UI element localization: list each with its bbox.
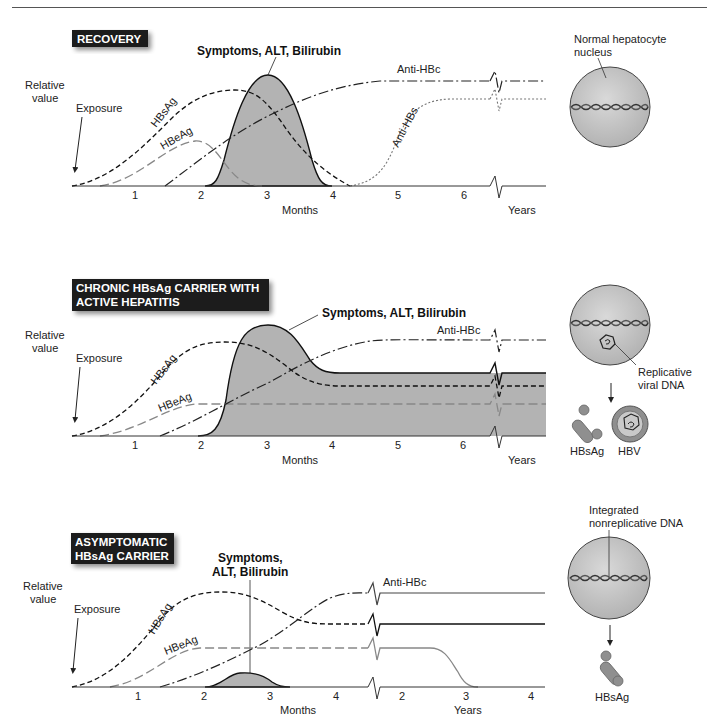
- symptoms-label: ALT, Bilirubin: [212, 565, 288, 579]
- symptoms-curve: [198, 325, 546, 436]
- hbv-product-label: HBV: [618, 445, 641, 457]
- symptoms-label: Symptoms, ALT, Bilirubin: [322, 306, 466, 320]
- anti-hbc-label: Anti-HBc: [383, 576, 427, 588]
- nucleus-label: Normal hepatocyte: [574, 33, 666, 45]
- x-tick: 2: [198, 439, 204, 451]
- symptoms-leader: [289, 315, 318, 330]
- panel-title: ACTIVE HEPATITIS: [76, 296, 180, 308]
- hbsag-product-label: HBsAg: [595, 691, 629, 703]
- y-axis-label: value: [30, 593, 56, 605]
- x-tick: 4: [528, 690, 534, 702]
- x-tick: 6: [461, 189, 467, 201]
- anti-hbs-label: Anti-HBs: [389, 105, 420, 149]
- hbsag-product-label: HBsAg: [570, 445, 604, 457]
- symptoms-label: Symptoms,: [218, 551, 283, 565]
- exposure-label: Exposure: [74, 603, 120, 615]
- integrated-dna-nucleus: [568, 530, 650, 619]
- panel-title: HBsAg CARRIER: [75, 550, 170, 562]
- x-tick: 4: [333, 690, 339, 702]
- axis-break-icon: [490, 71, 546, 93]
- symptoms-label: Symptoms, ALT, Bilirubin: [197, 44, 341, 58]
- x-axis-label-months: Months: [282, 454, 319, 466]
- integrated-dna-label: Integrated: [589, 504, 639, 516]
- panel-title: CHRONIC HBsAg CARRIER WITH: [76, 282, 259, 294]
- hbsag-curve-years: [368, 614, 545, 636]
- normal-hepatocyte-nucleus: [570, 58, 650, 147]
- y-axis-label: Relative: [25, 79, 65, 91]
- hbsag-label: HBsAg: [148, 95, 179, 129]
- symptoms-curve: [205, 75, 332, 186]
- x-tick: 1: [132, 189, 138, 201]
- panel-chronic: CHRONIC HBsAg CARRIER WITH ACTIVE HEPATI…: [25, 279, 692, 466]
- x-tick: 6: [460, 439, 466, 451]
- anti-hbs-curve: [350, 99, 490, 186]
- symptoms-curve: [205, 673, 290, 687]
- x-tick: 1: [132, 439, 138, 451]
- x-tick: 2: [198, 189, 204, 201]
- x-tick: 5: [395, 439, 401, 451]
- hbv-serology-figure: RECOVERY Relative value Exposure Symptom…: [0, 0, 720, 723]
- x-axis-label-years: Years: [508, 454, 536, 466]
- x-axis-label-years: Years: [454, 704, 482, 716]
- hbeag-curve-years: [368, 638, 478, 687]
- infected-hepatocyte-nucleus: [570, 285, 650, 365]
- x-tick: 3: [264, 189, 270, 201]
- panel-asymptomatic: ASYMPTOMATIC HBsAg CARRIER Relative valu…: [23, 504, 684, 716]
- y-axis-label: Relative: [23, 580, 63, 592]
- anti-hbc-label: Anti-HBc: [397, 63, 441, 75]
- panel-title: RECOVERY: [77, 33, 141, 45]
- x-tick: 4: [329, 439, 335, 451]
- hbsag-particle-icon: [570, 405, 602, 445]
- x-axis-label-months: Months: [282, 204, 319, 216]
- hbsag-label: HBsAg: [146, 601, 174, 636]
- viral-dna-label: viral DNA: [638, 379, 685, 391]
- x-tick: 2: [201, 690, 207, 702]
- x-axis-label-years: Years: [508, 204, 536, 216]
- hbsag-particle-icon: [598, 651, 623, 687]
- x-tick: 5: [395, 189, 401, 201]
- exposure-arrow-icon: [73, 618, 78, 671]
- x-tick: 1: [135, 690, 141, 702]
- hbeag-label: HBeAg: [156, 390, 193, 414]
- panel-title: ASYMPTOMATIC: [75, 536, 167, 548]
- x-tick: 4: [330, 189, 336, 201]
- integrated-dna-label: nonreplicative DNA: [589, 517, 684, 529]
- hbv-virion-icon: [612, 406, 648, 442]
- exposure-label: Exposure: [76, 102, 122, 114]
- exposure-label: Exposure: [76, 352, 122, 364]
- x-tick: 3: [264, 439, 270, 451]
- x-tick: 3: [267, 690, 273, 702]
- y-axis-label: Relative: [25, 329, 65, 341]
- symptoms-leader: [268, 57, 276, 75]
- x-axis-label-months: Months: [280, 704, 317, 716]
- nucleus-label: nucleus: [574, 46, 612, 58]
- exposure-arrow-icon: [75, 117, 82, 170]
- x-tick: 2: [399, 690, 405, 702]
- hbsag-label: HBsAg: [148, 352, 179, 386]
- panel-recovery: RECOVERY Relative value Exposure Symptom…: [25, 30, 666, 216]
- y-axis-label: value: [32, 92, 58, 104]
- viral-dna-label: Replicative: [638, 366, 692, 378]
- x-axis: [72, 677, 545, 699]
- anti-hbc-label: Anti-HBc: [437, 324, 481, 336]
- y-axis-label: value: [32, 342, 58, 354]
- exposure-arrow-icon: [75, 367, 80, 420]
- anti-hbc-curve: [165, 81, 490, 186]
- x-tick: 3: [463, 690, 469, 702]
